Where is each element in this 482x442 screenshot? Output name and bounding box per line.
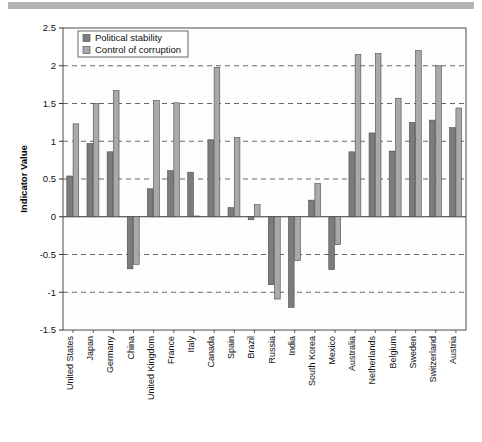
bar	[134, 217, 140, 265]
bar	[174, 103, 180, 217]
y-axis-title: Indicator Value	[18, 145, 29, 213]
bar	[234, 137, 240, 216]
legend-swatch	[83, 47, 90, 54]
chart-figure: 2.521.510.50-0.5-1-1.5Indicator ValueUni…	[0, 0, 482, 442]
bar	[73, 124, 79, 217]
bar	[436, 66, 442, 217]
bar	[288, 217, 294, 308]
bar	[248, 217, 254, 220]
y-tick-label: 2	[51, 60, 56, 71]
bar	[67, 176, 73, 217]
bar	[268, 217, 274, 285]
x-tick-label: France	[166, 336, 176, 364]
x-tick-label: Japan	[85, 336, 95, 361]
x-tick-label: Australia	[347, 336, 357, 371]
bar	[214, 67, 220, 216]
x-tick-label: Russia	[267, 336, 277, 364]
x-tick-label: Italy	[186, 336, 196, 353]
bar	[154, 100, 160, 216]
bar	[395, 98, 401, 217]
x-tick-label: Austria	[448, 336, 458, 364]
bar	[349, 152, 355, 217]
bar	[335, 217, 341, 245]
x-tick-label: China	[126, 336, 136, 360]
y-tick-label: -1.5	[40, 324, 56, 335]
bar	[295, 217, 301, 261]
bar	[208, 140, 214, 217]
legend-label: Political stability	[95, 32, 162, 43]
x-tick-label: Brazil	[246, 336, 256, 359]
x-tick-label: Netherlands	[367, 336, 377, 385]
bar	[194, 216, 200, 217]
plot-area-wrapper: 2.521.510.50-0.5-1-1.5Indicator ValueUni…	[0, 0, 482, 442]
y-tick-label: 1.5	[43, 98, 56, 109]
bar	[315, 184, 321, 217]
bar	[416, 51, 422, 217]
bar	[107, 152, 113, 217]
x-tick-label: Germany	[105, 336, 115, 374]
bar	[228, 208, 234, 217]
x-tick-label: Belgium	[388, 336, 398, 369]
grouped-bar-chart: 2.521.510.50-0.5-1-1.5Indicator ValueUni…	[0, 0, 482, 442]
bar	[329, 217, 335, 270]
bar	[147, 189, 153, 217]
y-tick-label: -0.5	[40, 249, 56, 260]
bar	[375, 54, 381, 217]
bar	[113, 91, 119, 217]
x-tick-label: South Korea	[307, 336, 317, 386]
bar	[127, 217, 133, 269]
bar	[369, 133, 375, 217]
y-tick-label: -1	[48, 287, 56, 298]
x-tick-label: United States	[65, 336, 75, 391]
y-tick-label: 1	[51, 136, 56, 147]
legend-swatch	[83, 35, 90, 42]
x-tick-label: India	[287, 336, 297, 356]
bar	[275, 217, 281, 299]
x-tick-label: Mexico	[327, 336, 337, 365]
bar	[430, 120, 436, 217]
y-tick-label: 0.5	[43, 173, 56, 184]
bar	[355, 54, 361, 216]
legend-label: Control of corruption	[95, 44, 181, 55]
bar	[309, 200, 315, 217]
bar	[188, 172, 194, 217]
x-tick-label: Switzerland	[428, 336, 438, 383]
bar	[254, 205, 260, 217]
bar	[93, 104, 99, 217]
bar	[389, 151, 395, 217]
y-tick-label: 2.5	[43, 22, 56, 33]
bar	[168, 171, 174, 217]
bar	[450, 128, 456, 217]
bar	[456, 108, 462, 217]
y-tick-label: 0	[51, 211, 56, 222]
x-tick-label: Canada	[206, 336, 216, 368]
bar	[409, 122, 415, 216]
x-tick-label: Spain	[226, 336, 236, 359]
x-tick-label: United Kingdom	[146, 336, 156, 400]
x-tick-label: Sweden	[408, 336, 418, 369]
bar	[87, 144, 93, 217]
